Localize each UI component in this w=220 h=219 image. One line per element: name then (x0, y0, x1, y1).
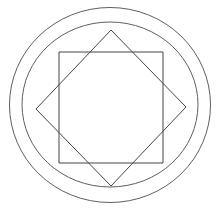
geometric-figure-canvas (0, 0, 220, 219)
canvas-background (0, 0, 220, 219)
star-in-circles-svg (0, 0, 220, 219)
